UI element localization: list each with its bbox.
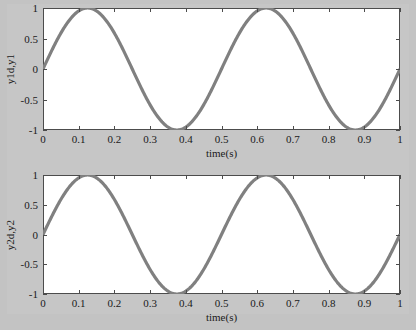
xtick-mark <box>79 8 80 12</box>
ytick-mark <box>396 294 400 295</box>
yaxis-label-bottom: y2d,y2 <box>5 219 16 249</box>
ytick-mark <box>396 39 400 40</box>
ytick-label: 1 <box>33 170 39 181</box>
ytick-label: 0.5 <box>24 33 38 44</box>
xtick-mark <box>400 126 401 130</box>
ytick-mark <box>396 235 400 236</box>
xtick-label: 0.8 <box>322 134 336 145</box>
series-line <box>43 175 400 294</box>
ytick-label: -0.5 <box>21 259 38 270</box>
xtick-mark <box>364 126 365 130</box>
xtick-mark <box>79 290 80 294</box>
xtick-label: 1 <box>397 298 403 309</box>
xtick-mark <box>186 290 187 294</box>
xtick-label: 0.3 <box>143 298 157 309</box>
xtick-label: 0.3 <box>143 134 157 145</box>
xtick-label: 0.9 <box>357 134 371 145</box>
ytick-mark <box>43 235 47 236</box>
ytick-mark <box>43 8 47 9</box>
ytick-mark <box>43 264 47 265</box>
xtick-mark <box>150 290 151 294</box>
xtick-mark <box>257 8 258 12</box>
ytick-label: -0.5 <box>21 94 38 105</box>
xtick-mark <box>150 175 151 179</box>
xtick-label: 0.9 <box>357 298 371 309</box>
xtick-mark <box>293 126 294 130</box>
xtick-label: 1 <box>397 134 403 145</box>
ytick-mark <box>43 100 47 101</box>
xtick-label: 0.5 <box>215 298 229 309</box>
xaxis-label-top: time(s) <box>206 148 237 159</box>
ytick-mark <box>396 69 400 70</box>
xtick-mark <box>114 290 115 294</box>
xtick-mark <box>257 126 258 130</box>
xtick-label: 0.7 <box>286 298 300 309</box>
xtick-label: 0.5 <box>215 134 229 145</box>
series-line <box>43 8 400 130</box>
xtick-mark <box>400 175 401 179</box>
ytick-mark <box>43 175 47 176</box>
xtick-label: 0.4 <box>179 298 193 309</box>
ytick-label: -1 <box>29 289 38 300</box>
xtick-mark <box>400 8 401 12</box>
plot-line-bottom <box>43 175 400 294</box>
xtick-label: 0.7 <box>286 134 300 145</box>
xtick-mark <box>222 290 223 294</box>
ytick-mark <box>396 130 400 131</box>
ytick-mark <box>43 294 47 295</box>
xtick-mark <box>257 175 258 179</box>
ytick-mark <box>396 100 400 101</box>
xtick-mark <box>293 290 294 294</box>
subplot-bottom: 00.10.20.30.40.50.60.70.80.91-1-0.500.51… <box>43 175 400 294</box>
xtick-mark <box>329 126 330 130</box>
ytick-label: 0 <box>33 64 39 75</box>
xtick-mark <box>186 8 187 12</box>
xtick-label: 0.1 <box>72 134 86 145</box>
xtick-mark <box>364 175 365 179</box>
xtick-mark <box>79 126 80 130</box>
ytick-label: 0.5 <box>24 199 38 210</box>
xtick-mark <box>150 126 151 130</box>
ytick-label: 0 <box>33 229 39 240</box>
xtick-label: 0.6 <box>250 298 264 309</box>
ytick-mark <box>396 8 400 9</box>
xtick-label: 0.4 <box>179 134 193 145</box>
xtick-mark <box>329 175 330 179</box>
xtick-mark <box>257 290 258 294</box>
ytick-mark <box>396 175 400 176</box>
xtick-mark <box>114 175 115 179</box>
xtick-mark <box>186 175 187 179</box>
ytick-mark <box>43 205 47 206</box>
xtick-mark <box>186 126 187 130</box>
xtick-label: 0.2 <box>108 298 122 309</box>
xtick-label: 0.2 <box>108 134 122 145</box>
xaxis-label-bottom: time(s) <box>206 312 237 323</box>
xtick-mark <box>364 8 365 12</box>
xtick-mark <box>400 290 401 294</box>
ytick-mark <box>43 130 47 131</box>
ytick-mark <box>43 69 47 70</box>
ytick-mark <box>396 205 400 206</box>
figure-window: 00.10.20.30.40.50.60.70.80.91-1-0.500.51… <box>0 0 416 330</box>
xtick-mark <box>293 175 294 179</box>
xtick-mark <box>222 126 223 130</box>
xtick-mark <box>329 8 330 12</box>
ytick-mark <box>396 264 400 265</box>
xtick-mark <box>79 175 80 179</box>
ytick-label: 1 <box>33 3 39 14</box>
xtick-mark <box>150 8 151 12</box>
plot-line-top <box>43 8 400 130</box>
xtick-mark <box>222 8 223 12</box>
xtick-label: 0.8 <box>322 298 336 309</box>
xtick-mark <box>293 8 294 12</box>
xtick-label: 0 <box>40 134 46 145</box>
xtick-label: 0.1 <box>72 298 86 309</box>
ytick-mark <box>43 39 47 40</box>
xtick-mark <box>329 290 330 294</box>
xtick-label: 0.6 <box>250 134 264 145</box>
xtick-mark <box>364 290 365 294</box>
xtick-mark <box>114 8 115 12</box>
xtick-label: 0 <box>40 298 46 309</box>
subplot-top: 00.10.20.30.40.50.60.70.80.91-1-0.500.51… <box>43 8 400 130</box>
ytick-label: -1 <box>29 125 38 136</box>
